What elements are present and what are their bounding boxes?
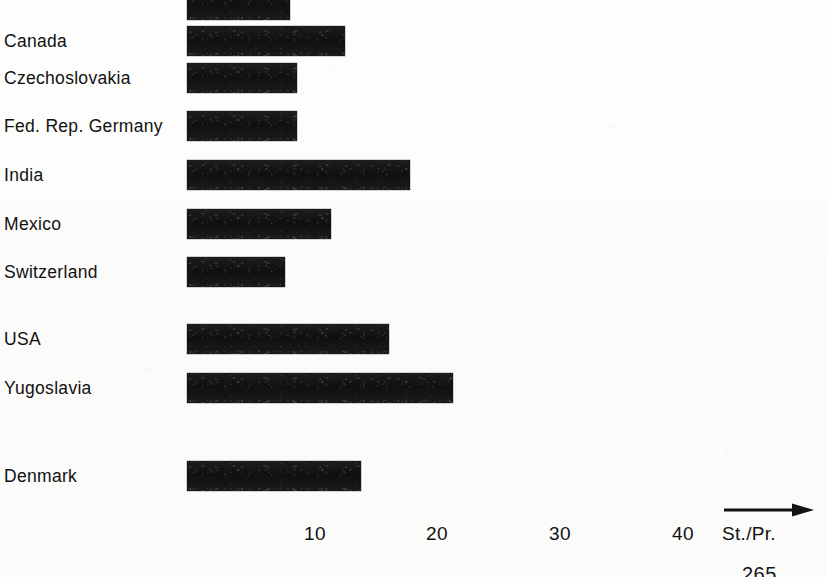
x-axis-tick-label: 20	[426, 523, 448, 545]
bar	[187, 26, 345, 56]
bar-row: Czechoslovakia	[0, 59, 826, 97]
bar-row: Yugoslavia	[0, 369, 826, 407]
bar-category-label: Czechoslovakia	[4, 68, 131, 89]
horizontal-bar-chart: CanadaCzechoslovakiaFed. Rep. GermanyInd…	[0, 0, 826, 577]
bar-category-label: USA	[4, 329, 41, 350]
bar	[187, 160, 410, 190]
x-axis-tick-label: 10	[304, 523, 326, 545]
bar-category-label: Canada	[4, 31, 67, 52]
bar-row: Fed. Rep. Germany	[0, 107, 826, 145]
x-axis-unit-label: St./Pr.	[722, 523, 776, 545]
bar-category-label: Switzerland	[4, 262, 98, 283]
page-number: 265	[742, 563, 777, 577]
bar-category-label: Fed. Rep. Germany	[4, 116, 163, 137]
bar-row	[0, 0, 826, 24]
bar	[187, 0, 290, 20]
bar	[187, 373, 453, 403]
bar-row: Mexico	[0, 205, 826, 243]
bar	[187, 257, 285, 287]
bar	[187, 209, 331, 239]
x-axis-tick-label: 30	[549, 523, 571, 545]
bar-category-label: Mexico	[4, 214, 61, 235]
figure-page: CanadaCzechoslovakiaFed. Rep. GermanyInd…	[0, 0, 826, 577]
bar-row: Denmark	[0, 457, 826, 495]
bar	[187, 111, 297, 141]
bar-row: India	[0, 156, 826, 194]
bar-category-label: India	[4, 165, 43, 186]
bar-row: Switzerland	[0, 253, 826, 291]
bar	[187, 461, 361, 491]
bar-category-label: Denmark	[4, 466, 77, 487]
right-arrow-icon	[722, 503, 814, 517]
bar-row: USA	[0, 320, 826, 358]
bar	[187, 63, 297, 93]
x-axis-tick-label: 40	[672, 523, 694, 545]
bar-category-label: Yugoslavia	[4, 378, 92, 399]
bar-row: Canada	[0, 22, 826, 60]
bar	[187, 324, 389, 354]
